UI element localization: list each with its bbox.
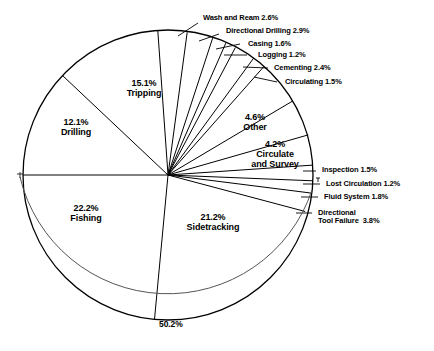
slice-pct-sidetracking: 21.2%: [158, 212, 268, 222]
pie-chart-figure: 15.1% Tripping 12.1% Drilling 22.2% Fish…: [0, 0, 434, 351]
slice-pct-fishing: 22.2%: [42, 203, 130, 213]
directional-tool-failure-pct: 3.8%: [363, 217, 380, 225]
slice-label-other: 4.6% Other: [225, 112, 285, 132]
slice-name-other: Other: [225, 122, 285, 132]
slice-label-lost-circulation: Lost Circulation 1.2%: [326, 180, 400, 188]
slice-name-circulate-and-survey-line1: Circulate: [234, 149, 316, 159]
bracket-end-left: [17, 172, 23, 178]
slice-label-cementing: Cementing 2.4%: [274, 64, 331, 72]
slice-label-circulate-and-survey: 4.2% Circulate and Survey: [234, 139, 316, 169]
pie-chart-svg: [0, 0, 434, 351]
slice-label-logging: Logging 1.2%: [258, 51, 306, 59]
slice-pct-other: 4.6%: [225, 112, 285, 122]
slice-pct-tripping: 15.1%: [104, 78, 184, 88]
slice-pct-drilling: 12.1%: [38, 117, 114, 127]
slice-label-directional-drilling: Directional Drilling 2.9%: [226, 27, 309, 35]
directional-tool-failure-line2: Tool Failure: [318, 217, 359, 225]
slice-label-casing: Casing 1.6%: [248, 40, 291, 48]
slice-label-circulating: Circulating 1.5%: [285, 78, 342, 86]
slice-name-tripping: Tripping: [104, 88, 184, 98]
directional-tool-failure-text: Directional Tool Failure: [318, 209, 359, 226]
slice-label-sidetracking: 21.2% Sidetracking: [158, 212, 268, 232]
slice-label-inspection: Inspection 1.5%: [322, 166, 377, 174]
slice-label-directional-tool-failure: Directional Tool Failure 3.8%: [318, 209, 379, 226]
slice-label-wash-and-ream: Wash and Ream 2.6%: [203, 14, 278, 22]
slice-pct-circulate-and-survey: 4.2%: [234, 139, 316, 149]
slice-name-fishing: Fishing: [42, 213, 130, 223]
slice-label-drilling: 12.1% Drilling: [38, 117, 114, 137]
slice-label-fluid-system: Fluid System 1.8%: [324, 193, 388, 201]
tick-mark-right: [316, 178, 320, 182]
slice-name-sidetracking: Sidetracking: [158, 222, 268, 232]
slice-name-drilling: Drilling: [38, 127, 114, 137]
slice-name-circulate-and-survey-line2: and Survey: [234, 159, 316, 169]
slice-label-tripping: 15.1% Tripping: [104, 78, 184, 98]
slice-label-fishing: 22.2% Fishing: [42, 203, 130, 223]
bracket-total-label: 50.2%: [159, 320, 183, 330]
